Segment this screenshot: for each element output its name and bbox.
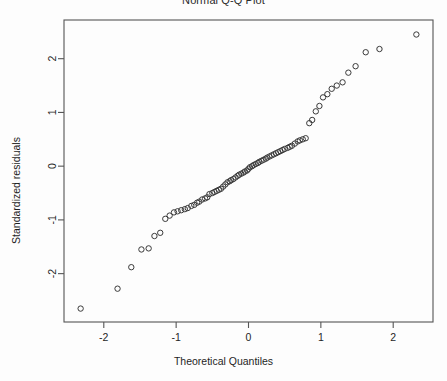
data-point <box>329 86 334 91</box>
plot-frame <box>64 20 433 322</box>
data-point <box>171 210 176 215</box>
y-tick-label: -2 <box>46 269 58 278</box>
data-point <box>353 64 358 69</box>
y-axis-ticks: -2-1012 <box>46 56 64 279</box>
x-tick-label: -2 <box>99 331 108 343</box>
data-point <box>363 50 368 55</box>
y-tick-label: -1 <box>46 215 58 224</box>
plot-canvas: -2-1012 -2-1012 <box>0 0 447 381</box>
data-point <box>317 103 322 108</box>
data-point <box>175 209 180 214</box>
x-tick-label: 1 <box>318 331 324 343</box>
data-point <box>377 46 382 51</box>
data-point <box>346 70 351 75</box>
qq-plot-figure: Normal Q-Q Plot -2-1012 -2-1012 Theoreti… <box>0 0 447 381</box>
x-tick-label: -1 <box>171 331 180 343</box>
y-axis-label: Standardized residuals <box>8 0 24 381</box>
y-tick-label: 0 <box>46 163 58 169</box>
data-point <box>179 208 184 213</box>
data-point <box>325 91 330 96</box>
x-tick-label: 0 <box>246 331 252 343</box>
data-points <box>78 32 419 311</box>
data-point <box>139 247 144 252</box>
data-point <box>334 83 339 88</box>
x-axis-label: Theoretical Quantiles <box>0 355 447 367</box>
data-point <box>152 233 157 238</box>
x-tick-label: 2 <box>390 331 396 343</box>
data-point <box>340 80 345 85</box>
y-tick-label: 2 <box>46 56 58 62</box>
data-point <box>414 32 419 37</box>
data-point <box>313 109 318 114</box>
data-point <box>158 230 163 235</box>
data-point <box>115 286 120 291</box>
data-point <box>146 246 151 251</box>
y-tick-label: 1 <box>46 109 58 115</box>
x-axis-ticks: -2-1012 <box>99 322 396 343</box>
data-point <box>129 264 134 269</box>
data-point <box>78 306 83 311</box>
